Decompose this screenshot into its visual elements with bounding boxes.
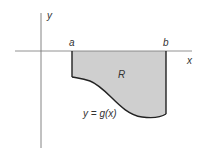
diagram-canvas: y x a b R y = g(x): [0, 0, 206, 158]
region-label: R: [118, 69, 125, 80]
x-axis-label: x: [186, 55, 193, 66]
y-axis-label: y: [46, 10, 53, 21]
label-b: b: [163, 37, 169, 48]
label-a: a: [69, 37, 75, 48]
curve-label: y = g(x): [82, 108, 117, 119]
